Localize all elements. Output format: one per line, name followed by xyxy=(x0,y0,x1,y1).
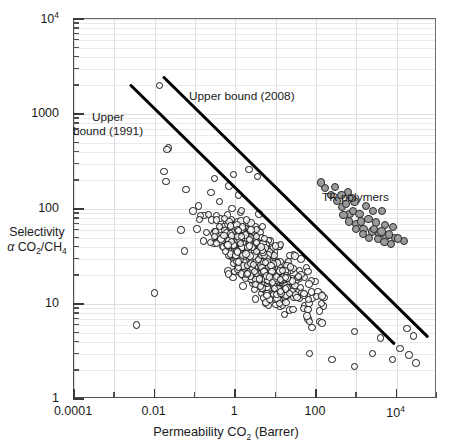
data-point xyxy=(267,262,274,269)
data-point xyxy=(272,242,279,249)
x-tick-label: 104 xyxy=(386,404,405,420)
data-point xyxy=(257,283,264,290)
data-point xyxy=(351,363,358,370)
data-point xyxy=(239,282,246,289)
data-point xyxy=(245,166,252,173)
y-tick-label: 1 xyxy=(0,391,59,405)
data-point xyxy=(328,356,335,363)
data-point xyxy=(189,207,196,214)
data-point xyxy=(133,321,140,328)
data-point xyxy=(200,237,207,244)
data-point xyxy=(251,268,258,275)
data-point xyxy=(304,268,311,275)
tr-polymer-point xyxy=(352,225,360,233)
data-point xyxy=(238,207,245,214)
data-point xyxy=(203,229,210,236)
data-point xyxy=(235,258,242,265)
tr-polymer-point xyxy=(359,230,367,238)
data-point xyxy=(306,350,313,357)
data-point xyxy=(351,328,358,335)
data-point xyxy=(244,270,251,277)
data-point xyxy=(303,312,310,319)
data-point xyxy=(216,198,223,205)
data-point xyxy=(300,290,307,297)
data-point xyxy=(151,289,158,296)
tr-polymer-point xyxy=(317,178,325,186)
tr-polymer-point xyxy=(345,217,353,225)
data-point xyxy=(308,324,315,331)
data-point xyxy=(213,216,220,223)
tr-polymer-point xyxy=(357,217,365,225)
data-point xyxy=(257,243,264,250)
data-point xyxy=(412,359,419,366)
x-axis-title: Permeability CO2 (Barrer) xyxy=(0,424,452,442)
annotation-upper-bound-1991: Upperbound (1991) xyxy=(60,110,156,138)
x-tick-label: 1 xyxy=(231,404,238,418)
alpha-symbol: α xyxy=(7,240,14,254)
y-axis-title-line2: CO2/CH4 xyxy=(18,240,67,254)
data-point xyxy=(181,247,188,254)
y-tick-label: 1000 xyxy=(0,106,59,120)
data-point xyxy=(269,279,276,286)
data-point xyxy=(242,250,249,257)
data-point xyxy=(305,280,312,287)
data-point xyxy=(207,189,214,196)
data-point xyxy=(369,350,376,357)
data-point xyxy=(403,325,410,332)
tr-polymer-point xyxy=(394,234,402,242)
x-tick-label: 0.0001 xyxy=(54,404,92,418)
data-point xyxy=(316,307,323,314)
data-point xyxy=(163,146,170,153)
data-point xyxy=(263,292,270,299)
y-tick-label: 100 xyxy=(0,201,59,215)
data-point xyxy=(246,242,253,249)
data-point xyxy=(193,225,200,232)
data-point xyxy=(211,175,218,182)
tr-polymer-point xyxy=(339,211,347,219)
data-point xyxy=(224,241,231,248)
tr-polymer-point xyxy=(349,207,357,215)
data-point xyxy=(282,299,289,306)
data-point xyxy=(405,351,412,358)
data-point xyxy=(230,171,237,178)
y-axis-title: Selectivity α CO2/CH4 xyxy=(4,225,70,259)
robeson-plot-figure: 11010010001040.00010.011100104 Selectivi… xyxy=(0,0,452,446)
data-point xyxy=(196,216,203,223)
data-point xyxy=(160,168,167,175)
plot-area xyxy=(73,18,436,398)
data-point xyxy=(318,292,325,299)
data-point xyxy=(182,186,189,193)
data-point xyxy=(289,306,296,313)
data-point xyxy=(396,345,403,352)
data-point xyxy=(308,288,315,295)
data-point xyxy=(281,311,288,318)
y-tick-label: 104 xyxy=(0,10,59,26)
tr-polymer-point xyxy=(369,207,377,215)
x-tick-label: 0.01 xyxy=(141,404,165,418)
annotation-tr-polymers: TR polymers xyxy=(322,190,389,204)
y-axis-title-line1: Selectivity xyxy=(9,225,64,239)
data-point xyxy=(162,178,169,185)
tr-polymer-point xyxy=(378,207,386,215)
annotation-upper-bound-2008: Upper bound (2008) xyxy=(189,89,295,103)
data-point xyxy=(247,226,254,233)
data-point xyxy=(225,270,232,277)
x-tick-label: 100 xyxy=(305,404,326,418)
data-point xyxy=(156,82,163,89)
data-point xyxy=(177,226,184,233)
data-point xyxy=(252,295,259,302)
data-point xyxy=(410,332,417,339)
data-point xyxy=(318,319,325,326)
data-point xyxy=(291,252,298,259)
data-point xyxy=(389,356,396,363)
y-tick-label: 10 xyxy=(0,296,59,310)
data-point xyxy=(216,223,223,230)
